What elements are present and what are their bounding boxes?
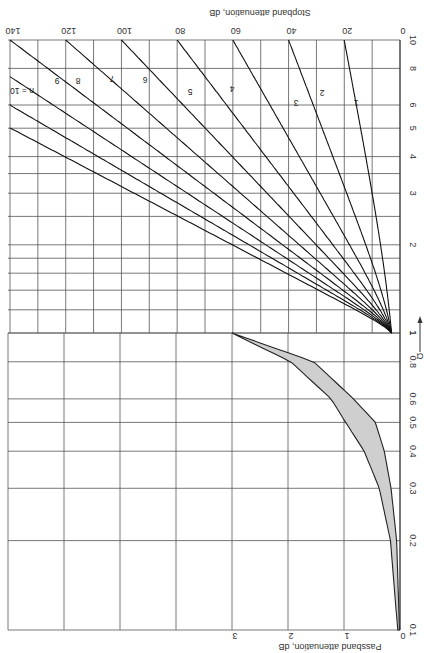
curve-label-n-9: 9 [54,76,59,86]
curve-n-5 [121,40,391,333]
curve-label-n-7: 7 [109,74,114,84]
omega-axis-label: Ω [415,353,425,360]
passband-shaded-band [232,333,399,630]
omega-tick: 0.4 [408,445,418,458]
passband-tick: 3 [232,631,237,641]
passband-axis-title: Passband attenuation, dB [278,642,381,652]
omega-tick: 0.6 [408,393,418,406]
omega-tick: 6 [408,102,418,107]
butterworth-attenuation-chart: 1234568100.10.20.30.40.50.60.81020406080… [0,0,430,653]
omega-tick: 8 [408,66,418,71]
stopband-tick: 140 [5,26,20,36]
axis-ticks: 1234568100.10.20.30.40.50.60.81020406080… [5,26,418,641]
omega-tick: 4 [408,154,418,159]
curve-n-1 [344,40,391,333]
stopband-tick: 60 [231,26,241,36]
passband-tick: 2 [288,631,293,641]
omega-tick: 10 [408,35,418,45]
stopband-tick: 120 [61,26,76,36]
stopband-curves [10,40,392,333]
curve-n-4 [177,40,392,333]
stopband-tick: 40 [287,26,297,36]
omega-tick: 3 [408,191,418,196]
stopband-tick: 80 [175,26,185,36]
omega-tick: 0.1 [408,624,418,637]
omega-tick: 0.5 [408,416,418,429]
curve-label-n-3: 3 [293,98,298,108]
omega-tick: 0.2 [408,534,418,547]
omega-tick: 1 [408,330,418,335]
curve-label-n-10: n = 10 [10,86,34,96]
stopband-tick: 0 [400,26,405,36]
passband-tick: 0 [400,631,405,641]
omega-tick: 2 [408,242,418,247]
curve-n-3 [233,40,392,333]
curve-label-n-5: 5 [187,87,192,97]
stopband-axis-title: Stopband attenuation, dB [209,8,311,18]
curve-label-n-6: 6 [142,75,147,85]
shaded-band [232,333,399,630]
curve-label-n-1: 1 [353,98,358,108]
curve-n-7 [10,40,392,333]
curve-n-2 [289,40,392,333]
passband-tick: 1 [344,631,349,641]
omega-tick: 5 [408,126,418,131]
stopband-tick: 20 [342,26,352,36]
omega-tick: 0.3 [408,482,418,495]
curve-label-n-4: 4 [229,84,234,94]
curve-label-n-8: 8 [75,76,80,86]
curve-label-n-2: 2 [319,88,324,98]
stopband-tick: 100 [117,26,132,36]
